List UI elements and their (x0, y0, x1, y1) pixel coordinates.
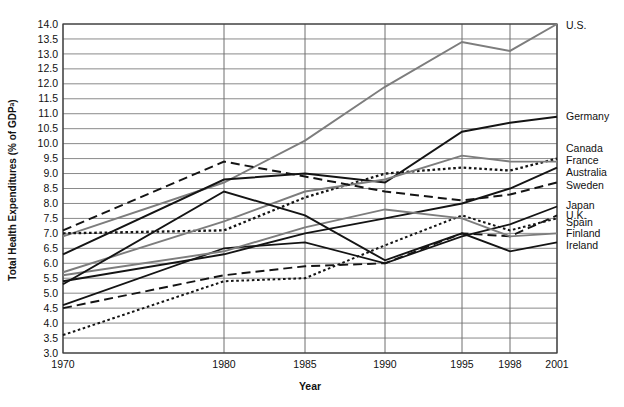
series-label-ireland: Ireland (566, 239, 598, 251)
y-tick-label: 8.5 (43, 182, 58, 194)
y-tick-label: 13.5 (38, 33, 59, 45)
x-tick-label: 1990 (373, 358, 397, 370)
series-label-us: U.S. (566, 19, 586, 31)
chart-container: 3.03.54.04.55.05.56.06.57.07.58.08.59.09… (0, 0, 624, 407)
y-axis-title: Total Health Expenditures (% of GDPᵃ) (7, 99, 18, 280)
y-tick-label: 6.5 (43, 242, 58, 254)
series-label-canada: Canada (566, 142, 603, 154)
x-tick-label: 1980 (212, 358, 236, 370)
y-tick-label: 11.5 (38, 92, 58, 104)
x-tick-label: 2001 (545, 358, 569, 370)
y-tick-label: 5.5 (43, 272, 58, 284)
y-axis-tick-labels: 3.03.54.04.55.05.56.06.57.07.58.08.59.09… (38, 18, 59, 359)
y-tick-label: 9.5 (43, 152, 58, 164)
y-tick-label: 3.5 (43, 332, 58, 344)
y-tick-label: 14.0 (38, 18, 59, 30)
y-tick-label: 9.0 (43, 167, 58, 179)
y-tick-label: 8.0 (43, 197, 58, 209)
series-label-finland: Finland (566, 227, 601, 239)
x-tick-label: 1970 (51, 358, 75, 370)
x-axis-title: Year (299, 380, 321, 392)
y-tick-label: 7.5 (43, 212, 58, 224)
y-tick-label: 4.0 (43, 317, 58, 329)
y-tick-label: 5.0 (43, 287, 58, 299)
y-tick-label: 12.0 (38, 77, 59, 89)
y-tick-label: 12.5 (38, 62, 59, 74)
y-tick-label: 4.5 (43, 302, 58, 314)
series-label-sweden: Sweden (566, 179, 604, 191)
x-tick-label: 1995 (450, 358, 474, 370)
x-tick-label: 1985 (293, 358, 317, 370)
y-tick-label: 10.0 (38, 137, 59, 149)
y-tick-label: 10.5 (38, 122, 59, 134)
y-tick-label: 11.0 (38, 107, 58, 119)
series-line-japan (63, 206, 557, 305)
health-expenditure-line-chart: 3.03.54.04.55.05.56.06.57.07.58.08.59.09… (0, 0, 624, 407)
y-tick-label: 6.0 (43, 257, 58, 269)
series-line-uk (63, 215, 557, 308)
series-name-labels: U.S.GermanyCanadaFranceAustraliaSwedenJa… (566, 19, 610, 251)
y-tick-label: 3.0 (43, 347, 58, 359)
series-line-ireland (63, 191, 557, 284)
x-axis-tick-labels: 1970198019851990199519982001 (51, 358, 569, 370)
series-lines (63, 24, 557, 335)
y-tick-label: 7.0 (43, 227, 58, 239)
y-gridlines (63, 24, 557, 353)
series-label-france: France (566, 154, 599, 166)
series-line-us (63, 24, 557, 236)
x-tick-label: 1998 (498, 358, 522, 370)
series-label-australia: Australia (566, 166, 607, 178)
series-label-germany: Germany (566, 110, 610, 122)
y-tick-label: 13.0 (38, 48, 59, 60)
